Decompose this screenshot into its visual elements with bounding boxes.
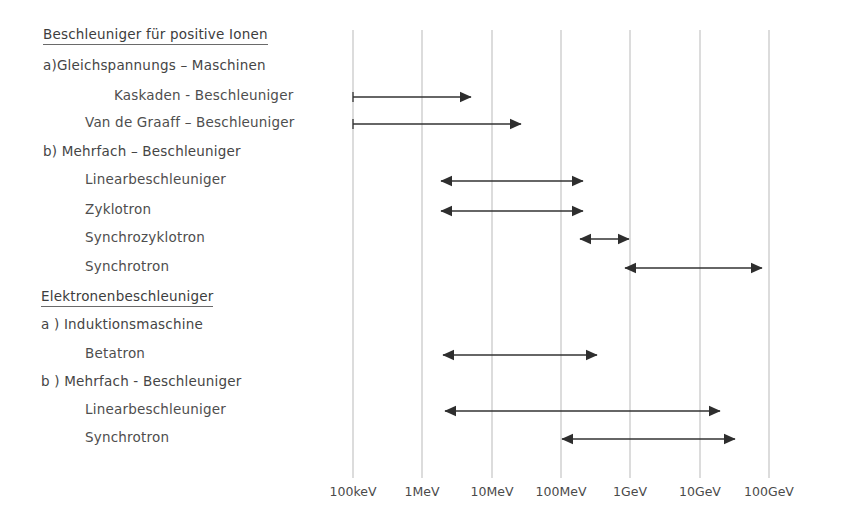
- section-ion-a: a)Gleichspannungs – Maschinen: [43, 59, 266, 73]
- axis-tick-label: 100MeV: [536, 486, 587, 499]
- row-label-kaskaden: Kaskaden - Beschleuniger: [114, 89, 293, 103]
- row-label-synchrotron-ion: Synchrotron: [85, 260, 169, 274]
- section-ion-b: b) Mehrfach – Beschleuniger: [43, 145, 241, 159]
- group-title-ions: Beschleuniger für positive Ionen: [43, 28, 268, 45]
- row-label-synchrozyklotron: Synchrozyklotron: [85, 231, 205, 245]
- axis-tick-label: 1GeV: [613, 486, 647, 499]
- axis-tick-label: 10MeV: [471, 486, 514, 499]
- row-label-linac-electron: Linearbeschleuniger: [85, 403, 226, 417]
- row-label-synchrotron-electron: Synchrotron: [85, 431, 169, 445]
- axis-tick-label: 100keV: [330, 486, 377, 499]
- row-label-betatron: Betatron: [85, 347, 145, 361]
- row-label-linac-ion: Linearbeschleuniger: [85, 173, 226, 187]
- section-electron-a: a ) Induktionsmaschine: [41, 318, 203, 332]
- axis-tick-label: 1MeV: [405, 486, 440, 499]
- group-title-electrons: Elektronenbeschleuniger: [41, 290, 213, 307]
- section-electron-b: b ) Mehrfach - Beschleuniger: [41, 375, 241, 389]
- axis-tick-label: 100GeV: [744, 486, 794, 499]
- row-label-zyklotron: Zyklotron: [85, 203, 151, 217]
- axis-tick-label: 10GeV: [679, 486, 721, 499]
- figure-canvas: Beschleuniger für positive Ionen a)Gleic…: [0, 0, 842, 531]
- range-arrows-group: [353, 92, 762, 439]
- row-label-van-de-graaff: Van de Graaff – Beschleuniger: [85, 116, 295, 130]
